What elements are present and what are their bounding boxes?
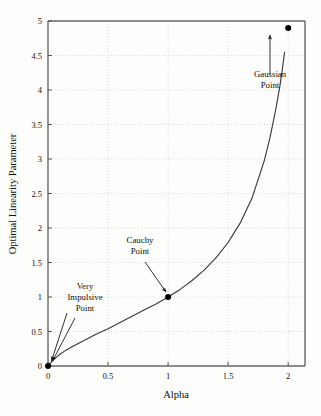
cauchy-label-line-2: Point: [131, 246, 150, 256]
y-tick-label: 5: [38, 16, 42, 26]
very-impulsive-label-line-1: Very: [77, 281, 94, 291]
x-tick-label: 1: [166, 371, 170, 381]
y-tick-label: 0: [38, 361, 42, 371]
y-tick-label: 3: [38, 154, 42, 164]
very-impulsive-label-line-3: Point: [76, 303, 95, 313]
y-tick-label: 1.5: [31, 258, 42, 268]
x-tick-label: 2: [286, 371, 290, 381]
x-tick-label: 0.5: [103, 371, 114, 381]
y-tick-label: 1: [38, 292, 42, 302]
gaussian-label-line-2: Point: [261, 80, 280, 90]
y-tick-label: 2: [38, 223, 42, 233]
x-axis-title: Alpha: [163, 389, 189, 400]
very-impulsive-label-line-2: Impulsive: [67, 292, 102, 302]
x-tick-label: 1.5: [223, 371, 234, 381]
gaussian-label-line-1: Gaussian: [254, 69, 287, 79]
data-point-marker: [285, 25, 291, 31]
data-point-marker: [45, 363, 51, 369]
y-tick-label: 2.5: [31, 189, 42, 199]
y-axis-title: Optimal Linearity Parameter: [7, 133, 18, 254]
y-tick-label: 0.5: [31, 327, 42, 337]
chart-canvas: 00.511.522.533.544.55 00.511.52 Very Imp…: [0, 0, 321, 416]
y-tick-label: 3.5: [31, 120, 42, 130]
cauchy-label-line-1: Cauchy: [127, 235, 154, 245]
y-tick-label: 4.5: [31, 51, 42, 61]
data-point-marker: [165, 294, 171, 300]
chart-figure: 00.511.522.533.544.55 00.511.52 Very Imp…: [0, 0, 321, 416]
x-tick-label: 0: [46, 371, 50, 381]
